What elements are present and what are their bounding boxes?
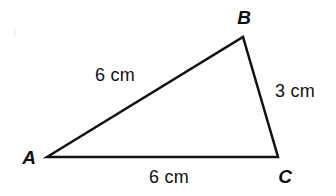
triangle-outline: [47, 37, 278, 157]
side-length-label-ab: 6 cm: [95, 66, 135, 84]
vertex-label-c: C: [278, 167, 292, 186]
vertex-label-b: B: [237, 8, 251, 27]
side-length-label-bc: 3 cm: [275, 82, 315, 100]
geometry-figure: A B C 6 cm 3 cm 6 cm: [0, 0, 336, 196]
vertex-label-a: A: [22, 148, 36, 167]
side-length-label-ac: 6 cm: [149, 168, 189, 186]
